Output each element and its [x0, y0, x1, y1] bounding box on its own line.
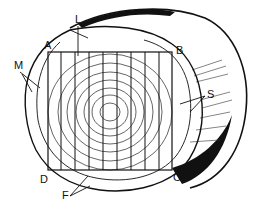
log-illustration — [0, 0, 253, 210]
label-M: M — [14, 60, 23, 71]
label-A: A — [44, 40, 51, 51]
label-D: D — [40, 174, 48, 185]
label-C: C — [173, 172, 181, 183]
label-L: L — [75, 14, 81, 25]
label-B: B — [176, 45, 183, 56]
label-F: F — [62, 190, 69, 201]
label-S: S — [207, 89, 214, 100]
log-sawing-diagram: L A B M S D C F — [0, 0, 253, 210]
